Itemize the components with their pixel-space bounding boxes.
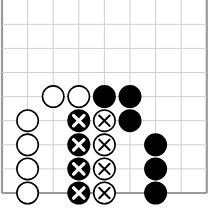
black-stone[interactable]: [93, 85, 116, 108]
white-stone-marked[interactable]: [94, 134, 115, 155]
black-stone-marked[interactable]: [67, 157, 90, 180]
white-stone-marked[interactable]: [94, 158, 115, 179]
white-stone-marked[interactable]: [94, 182, 115, 203]
white-stone[interactable]: [17, 110, 38, 131]
white-stone-marked[interactable]: [94, 110, 115, 131]
black-stone[interactable]: [144, 182, 167, 205]
white-stone[interactable]: [17, 158, 38, 179]
go-board[interactable]: [0, 0, 211, 209]
black-stone-marked[interactable]: [67, 109, 90, 132]
white-stone[interactable]: [17, 182, 38, 203]
black-stone-marked[interactable]: [67, 133, 90, 156]
go-board-canvas[interactable]: [0, 0, 211, 209]
black-stone-marked[interactable]: [67, 182, 90, 205]
black-stone[interactable]: [119, 85, 142, 108]
black-stone[interactable]: [144, 133, 167, 156]
white-stone[interactable]: [68, 86, 89, 107]
white-stone[interactable]: [43, 86, 64, 107]
black-stone[interactable]: [119, 109, 142, 132]
white-stone[interactable]: [17, 134, 38, 155]
black-stone[interactable]: [144, 157, 167, 180]
